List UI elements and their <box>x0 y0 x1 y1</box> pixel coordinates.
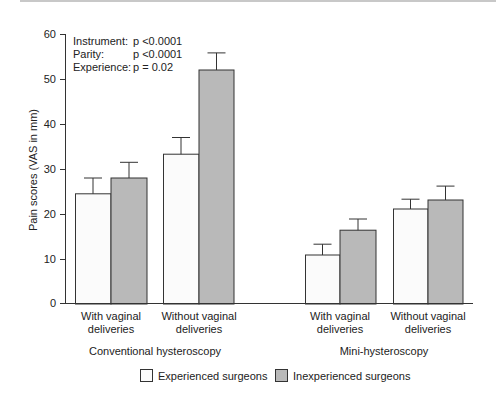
legend-label-experienced: Experienced surgeons <box>158 370 268 382</box>
annotation-label-instrument: Instrument: <box>73 35 128 47</box>
group-label-mini: Mini-hysteroscopy <box>340 345 429 357</box>
bar-conv-without-inexperienced <box>199 70 234 304</box>
legend-swatch-inexperienced <box>276 370 288 382</box>
bar-chart: 60 50 40 30 20 10 0 Pain scores (VAS in … <box>0 0 496 408</box>
legend: Experienced surgeons Inexperienced surge… <box>141 370 411 383</box>
legend-label-inexperienced: Inexperienced surgeons <box>293 370 411 382</box>
annotation-label-experience: Experience: <box>73 61 131 73</box>
significance-annotation: Instrument: p <0.0001 Parity: p <0.0001 … <box>73 35 182 73</box>
bar-conv-with-experienced <box>76 194 112 304</box>
y-tick-30: 30 <box>44 163 56 175</box>
x-label-conv-without-1: Without vaginal <box>161 310 236 322</box>
bar-mini-without-experienced <box>394 209 429 304</box>
y-axis <box>60 34 66 304</box>
group-label-conventional: Conventional hysteroscopy <box>89 345 222 357</box>
annotation-value-parity: p <0.0001 <box>133 48 182 60</box>
x-category-labels: With vaginal deliveries Without vaginal … <box>81 310 466 357</box>
x-label-mini-with-1: With vaginal <box>310 310 370 322</box>
legend-swatch-experienced <box>141 370 153 382</box>
bar-conv-with-inexperienced <box>111 178 147 304</box>
bar-mini-with-experienced <box>306 255 341 304</box>
annotation-label-parity: Parity: <box>73 48 104 60</box>
y-tick-labels: 60 50 40 30 20 10 0 <box>44 28 56 309</box>
annotation-value-instrument: p <0.0001 <box>133 35 182 47</box>
x-label-mini-without-2: deliveries <box>405 323 452 335</box>
x-label-conv-with-2: deliveries <box>88 323 135 335</box>
y-tick-40: 40 <box>44 118 56 130</box>
bar-mini-with-inexperienced <box>340 230 376 304</box>
y-tick-0: 0 <box>50 297 56 309</box>
y-tick-60: 60 <box>44 28 56 40</box>
bar-conv-without-experienced <box>164 154 200 304</box>
y-tick-10: 10 <box>44 253 56 265</box>
annotation-value-experience: p = 0.02 <box>133 61 173 73</box>
x-label-conv-with-1: With vaginal <box>81 310 141 322</box>
bars <box>76 70 464 304</box>
y-axis-label: Pain scores (VAS in mm) <box>27 109 39 231</box>
x-label-conv-without-2: deliveries <box>176 323 223 335</box>
x-label-mini-without-1: Without vaginal <box>390 310 465 322</box>
x-label-mini-with-2: deliveries <box>317 323 364 335</box>
bar-mini-without-inexperienced <box>428 200 463 304</box>
y-tick-50: 50 <box>44 73 56 85</box>
y-tick-20: 20 <box>44 208 56 220</box>
